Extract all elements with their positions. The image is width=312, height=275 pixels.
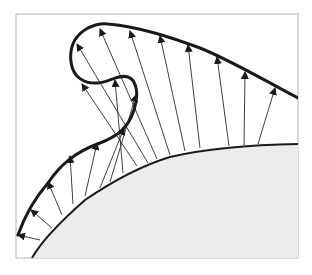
vector-diagram bbox=[0, 0, 312, 275]
